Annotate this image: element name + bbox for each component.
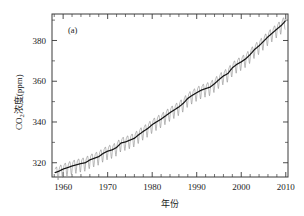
faint-header-text: [6, 1, 156, 9]
y-axis-title: CO2浓度(ppm): [13, 74, 25, 130]
x-tick-label: 1960: [54, 182, 73, 192]
y-tick-label: 320: [33, 158, 47, 168]
x-tick-label: 1980: [143, 182, 162, 192]
plot-frame: [52, 14, 288, 177]
x-axis-tick-labels: 196019701980199020002010: [54, 182, 295, 192]
y-axis-title-prefix: CO: [14, 117, 24, 130]
plot-frame-rect: [52, 14, 288, 177]
y-tick-label: 360: [33, 76, 47, 86]
x-axis-title: 年份: [161, 198, 179, 209]
seasonal-oscillation-path: [55, 18, 285, 180]
x-tick-label: 1990: [188, 182, 207, 192]
x-tick-label: 2000: [232, 182, 251, 192]
series-smoothed-trend: [55, 21, 285, 172]
y-axis-title-group: CO2浓度(ppm): [13, 74, 25, 130]
panel-label: (a): [68, 25, 78, 35]
figure-container: 320340360380 196019701980199020002010 (a…: [0, 0, 304, 216]
y-axis-title-suffix: 浓度(ppm): [13, 74, 24, 114]
y-tick-label: 380: [33, 36, 47, 46]
x-axis-ticks: [54, 14, 286, 177]
series-monthly-mean-co2: [55, 18, 285, 180]
y-axis-ticks: [52, 20, 288, 163]
trend-line-path: [55, 21, 285, 172]
y-axis-tick-labels: 320340360380: [33, 36, 47, 168]
co2-concentration-chart: 320340360380 196019701980199020002010 (a…: [0, 0, 304, 216]
x-tick-label: 1970: [99, 182, 118, 192]
y-tick-label: 340: [33, 117, 47, 127]
x-tick-label: 2010: [277, 182, 296, 192]
